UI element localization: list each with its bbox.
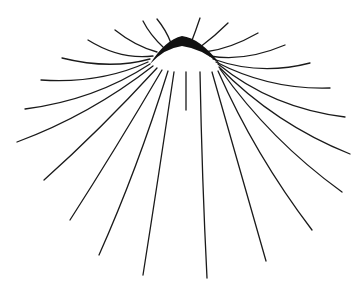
fan-drawing: [0, 0, 363, 288]
ray-line: [17, 66, 153, 142]
ray-line: [220, 69, 342, 192]
ray-line: [99, 71, 168, 255]
ray-group: [17, 18, 350, 278]
ray-line: [200, 72, 207, 278]
ray-line: [25, 64, 150, 109]
ray-line: [205, 33, 258, 52]
ray-line: [219, 67, 350, 154]
ray-line: [62, 58, 150, 64]
ray-line: [212, 72, 266, 261]
ray-line: [88, 40, 153, 57]
line-fan-figure: [0, 0, 363, 288]
ray-line: [157, 19, 171, 43]
ray-line: [210, 45, 285, 58]
ray-line: [199, 23, 228, 48]
ray-line: [41, 62, 148, 81]
ray-line: [218, 71, 312, 230]
